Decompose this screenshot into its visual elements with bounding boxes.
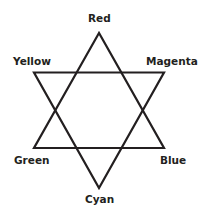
downward-triangle (34, 73, 164, 189)
label-yellow: Yellow (13, 56, 51, 67)
label-magenta: Magenta (146, 56, 198, 67)
label-green: Green (14, 155, 50, 166)
label-cyan: Cyan (85, 194, 114, 205)
upward-triangle (34, 33, 164, 148)
label-red: Red (88, 13, 111, 24)
hexagram (0, 0, 209, 218)
label-blue: Blue (160, 155, 186, 166)
